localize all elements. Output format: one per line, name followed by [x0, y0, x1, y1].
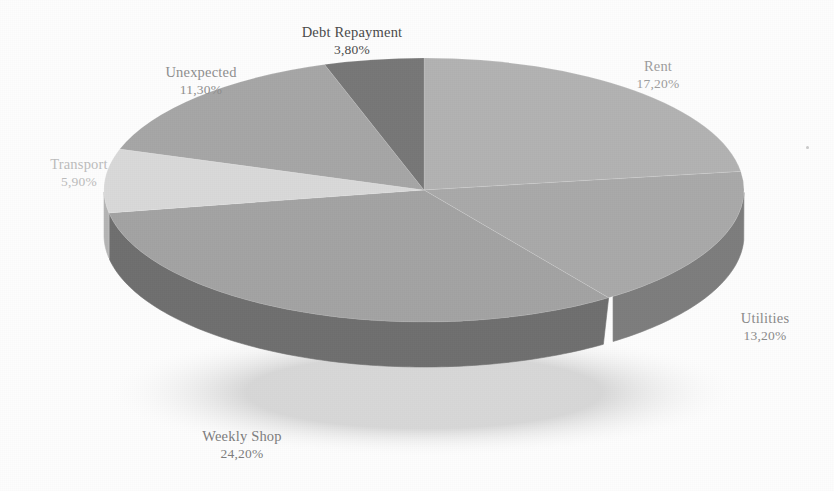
slice-label-rent: Rent 17,20% — [588, 58, 728, 92]
slice-label-name: Debt Repayment — [262, 24, 442, 42]
slice-label-name: Unexpected — [126, 64, 276, 82]
slice-label-value: 3,80% — [262, 42, 442, 58]
slice-label-debt-repayment: Debt Repayment 3,80% — [262, 24, 442, 58]
slice-label-name: Weekly Shop — [152, 428, 332, 446]
slice-label-name: Transport — [14, 156, 144, 174]
slice-label-name: Rent — [588, 58, 728, 76]
slice-label-value: 24,20% — [152, 446, 332, 462]
slice-label-unexpected: Unexpected 11,30% — [126, 64, 276, 98]
pie-chart-page: Rent 17,20%Utilities 13,20%Weekly Shop 2… — [0, 0, 834, 491]
slice-label-transport: Transport 5,90% — [14, 156, 144, 190]
slice-label-name: Utilities — [700, 310, 830, 328]
pie-chart-figure: Rent 17,20%Utilities 13,20%Weekly Shop 2… — [0, 0, 834, 491]
slice-label-value: 17,20% — [588, 76, 728, 92]
slice-label-weekly-shop: Weekly Shop 24,20% — [152, 428, 332, 462]
slice-label-value: 13,20% — [700, 328, 830, 344]
slice-label-value: 11,30% — [126, 82, 276, 98]
slice-label-value: 5,90% — [14, 174, 144, 190]
scan-artifact-speck — [806, 146, 809, 149]
slice-label-utilities: Utilities 13,20% — [700, 310, 830, 344]
